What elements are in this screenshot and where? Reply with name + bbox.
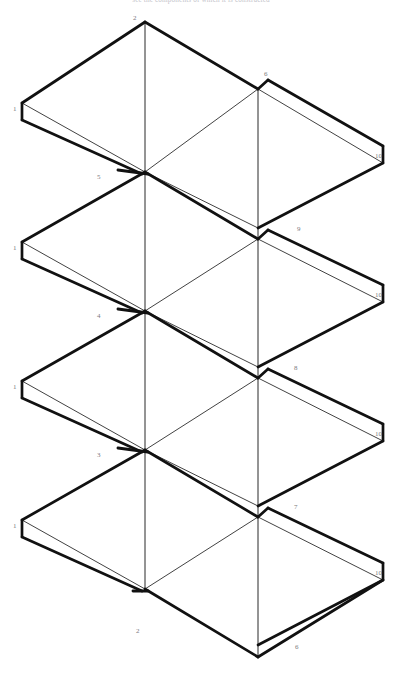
ref-numeral-6-bottom: 6 [295, 644, 299, 651]
ref-numeral-10-unit-3: 10 [375, 431, 382, 438]
panel-unit-3 [22, 311, 383, 506]
ref-numeral-10-unit-2: 10 [375, 292, 382, 299]
ref-numeral-1-unit-1: 1 [13, 106, 17, 113]
ref-numeral-1-unit-4: 1 [13, 523, 17, 530]
panel-unit-4 [22, 450, 383, 657]
panel-unit-2 [22, 172, 383, 367]
ref-numeral-10-unit-1: 10 [375, 153, 382, 160]
ref-numeral-4-unit-2: 4 [97, 313, 101, 320]
ref-numeral-2-unit-4: 2 [136, 628, 140, 635]
ref-numeral-1-unit-3: 1 [13, 384, 17, 391]
ref-numeral-7-unit-4: 7 [294, 504, 298, 511]
figure-line-drawing [0, 0, 402, 678]
ref-numeral-3-unit-3: 3 [97, 452, 101, 459]
ref-numeral-6-unit-1: 6 [264, 71, 268, 78]
ref-numeral-8-unit-3: 8 [294, 365, 298, 372]
patent-figure-root: see the components of which it is constr… [0, 0, 402, 678]
ref-numeral-5-unit-1: 5 [97, 174, 101, 181]
ref-numeral-2-top: 2 [133, 15, 137, 22]
ref-numeral-10-unit-4: 10 [375, 570, 382, 577]
panel-unit-1 [22, 22, 383, 228]
ref-numeral-9-unit-2: 9 [297, 226, 301, 233]
ref-numeral-1-unit-2: 1 [13, 245, 17, 252]
